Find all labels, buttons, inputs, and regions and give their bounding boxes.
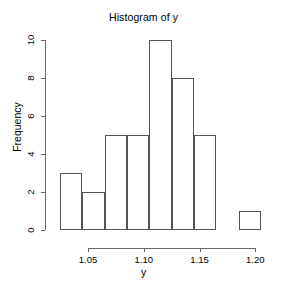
histogram-plot: Histogram of y 0246810 1.051.101.151.20 …: [0, 0, 287, 285]
histogram-bar: [172, 78, 194, 230]
x-axis-tick-label: 1.10: [124, 254, 164, 265]
y-axis-tick-label: 0: [26, 223, 36, 237]
y-axis-tick: [41, 230, 45, 231]
x-axis-tick-label: 1.05: [68, 254, 108, 265]
y-axis-line: [45, 40, 46, 230]
y-axis-tick-label: 8: [26, 71, 36, 85]
histogram-bar: [239, 211, 261, 230]
y-axis-tick-label: 10: [26, 33, 36, 47]
histogram-bar: [127, 135, 149, 230]
y-axis-title: Frequency: [11, 97, 23, 157]
plot-area: 0246810 1.051.101.151.20 Frequency y: [0, 0, 287, 285]
histogram-bar: [82, 192, 104, 230]
histogram-bar: [105, 135, 127, 230]
x-axis-tick-label: 1.20: [235, 254, 275, 265]
y-axis-tick-label: 6: [26, 109, 36, 123]
histogram-bar: [194, 135, 216, 230]
histogram-bar: [60, 173, 82, 230]
x-axis-title: y: [0, 266, 287, 278]
y-axis-tick-label: 2: [26, 185, 36, 199]
histogram-bar: [149, 40, 171, 230]
x-axis-tick-label: 1.15: [180, 254, 220, 265]
x-axis-line: [88, 248, 200, 249]
y-axis-tick-label: 4: [26, 147, 36, 161]
x-axis-line-right: [200, 248, 256, 249]
